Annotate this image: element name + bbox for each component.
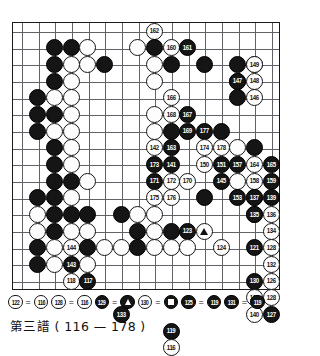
stone-move-178[interactable]: 178 [213, 139, 230, 156]
stone-black[interactable] [246, 139, 263, 156]
stone-white[interactable] [63, 123, 80, 140]
stone-white[interactable] [79, 256, 96, 273]
stone-black[interactable] [229, 56, 246, 73]
stone-move-160[interactable]: 160 [163, 39, 180, 56]
stone-black[interactable] [46, 173, 63, 190]
stone-move-117[interactable]: 117 [79, 273, 96, 290]
stone-move-145[interactable]: 145 [213, 173, 230, 190]
stone-black[interactable] [46, 206, 63, 223]
stone-move-148[interactable]: 148 [246, 73, 263, 90]
stone-white[interactable] [63, 156, 80, 173]
stone-move-135[interactable]: 135 [246, 206, 263, 223]
stone-black[interactable] [163, 223, 180, 240]
stone-move-162[interactable]: 162 [146, 23, 163, 40]
stone-white[interactable] [63, 73, 80, 90]
stone-move-157[interactable]: 157 [229, 156, 246, 173]
stone-white[interactable] [29, 223, 46, 240]
stone-black[interactable] [46, 139, 63, 156]
stone-move-171[interactable]: 171 [146, 173, 163, 190]
stone-black[interactable] [129, 223, 146, 240]
stone-white[interactable] [146, 123, 163, 140]
stone-move-141[interactable]: 141 [163, 156, 180, 173]
stone-black[interactable] [29, 123, 46, 140]
stone-move-159[interactable]: 159 [263, 173, 280, 190]
stone-move-124[interactable]: 124 [213, 239, 230, 256]
stone-move-139[interactable]: 139 [263, 189, 280, 206]
stone-move-158[interactable]: 158 [246, 173, 263, 190]
stone-move-176[interactable]: 176 [163, 189, 180, 206]
stone-white[interactable] [79, 173, 96, 190]
stone-move-174[interactable]: 174 [196, 139, 213, 156]
stone-move-142[interactable]: 142 [146, 139, 163, 156]
stone-white[interactable] [229, 173, 246, 190]
stone-move-173[interactable]: 173 [146, 156, 163, 173]
stone-move-118[interactable]: 118 [63, 273, 80, 290]
stone-move-165[interactable]: 165 [263, 156, 280, 173]
stone-black[interactable] [46, 106, 63, 123]
stone-move-150[interactable]: 150 [196, 156, 213, 173]
stone-move-146[interactable]: 146 [246, 89, 263, 106]
stone-move-147[interactable]: 147 [229, 73, 246, 90]
stone-black[interactable] [163, 56, 180, 73]
stone-white[interactable] [113, 239, 130, 256]
stone-black[interactable] [29, 106, 46, 123]
stone-white[interactable] [129, 206, 146, 223]
stone-move-144[interactable]: 144 [63, 239, 80, 256]
stone-white[interactable] [146, 239, 163, 256]
stone-move-116[interactable]: 116 [163, 339, 180, 356]
stone-black[interactable] [96, 56, 113, 73]
stone-black[interactable] [213, 123, 230, 140]
stone-move-119[interactable]: 119 [163, 323, 180, 340]
stone-black[interactable] [46, 73, 63, 90]
stone-black[interactable] [113, 206, 130, 223]
stone-move-169[interactable]: 169 [179, 123, 196, 140]
stone-black[interactable] [46, 156, 63, 173]
stone-white[interactable] [163, 239, 180, 256]
stone-white[interactable] [29, 206, 46, 223]
stone-white[interactable] [63, 223, 80, 240]
stone-move-167[interactable]: 167 [179, 106, 196, 123]
stone-white[interactable] [79, 223, 96, 240]
stone-move-123[interactable]: 123 [179, 223, 196, 240]
stone-white[interactable] [46, 89, 63, 106]
stone-move-143[interactable]: 143 [63, 256, 80, 273]
stone-move-149[interactable]: 149 [246, 56, 263, 73]
stone-black[interactable] [63, 206, 80, 223]
stone-marker-triangle[interactable] [196, 223, 213, 240]
stone-black[interactable] [196, 56, 213, 73]
stone-white[interactable] [46, 256, 63, 273]
stone-white[interactable] [46, 239, 63, 256]
stone-black[interactable] [46, 223, 63, 240]
stone-move-168[interactable]: 168 [163, 106, 180, 123]
stone-move-164[interactable]: 164 [246, 156, 263, 173]
stone-move-121[interactable]: 121 [246, 239, 263, 256]
stone-move-170[interactable]: 170 [179, 173, 196, 190]
stone-black[interactable] [163, 123, 180, 140]
stone-black[interactable] [46, 39, 63, 56]
stone-white[interactable] [146, 106, 163, 123]
stone-black[interactable] [79, 206, 96, 223]
stone-white[interactable] [63, 189, 80, 206]
stone-move-136[interactable]: 136 [263, 206, 280, 223]
stone-black[interactable] [63, 173, 80, 190]
stone-black[interactable] [46, 189, 63, 206]
stone-white[interactable] [146, 223, 163, 240]
stone-move-128[interactable]: 128 [263, 239, 280, 256]
stone-black[interactable] [146, 39, 163, 56]
stone-white[interactable] [146, 73, 163, 90]
stone-white[interactable] [63, 106, 80, 123]
stone-move-130[interactable]: 130 [246, 273, 263, 290]
stone-move-151[interactable]: 151 [213, 156, 230, 173]
stone-move-166[interactable]: 166 [163, 89, 180, 106]
stone-black[interactable] [63, 39, 80, 56]
stone-white[interactable] [96, 239, 113, 256]
stone-white[interactable] [146, 206, 163, 223]
stone-white[interactable] [46, 123, 63, 140]
stone-move-132[interactable]: 132 [263, 256, 280, 273]
stone-move-177[interactable]: 177 [196, 123, 213, 140]
stone-black[interactable] [196, 189, 213, 206]
stone-move-134[interactable]: 134 [263, 223, 280, 240]
stone-white[interactable] [63, 89, 80, 106]
stone-white[interactable] [63, 139, 80, 156]
stone-move-126[interactable]: 126 [263, 273, 280, 290]
